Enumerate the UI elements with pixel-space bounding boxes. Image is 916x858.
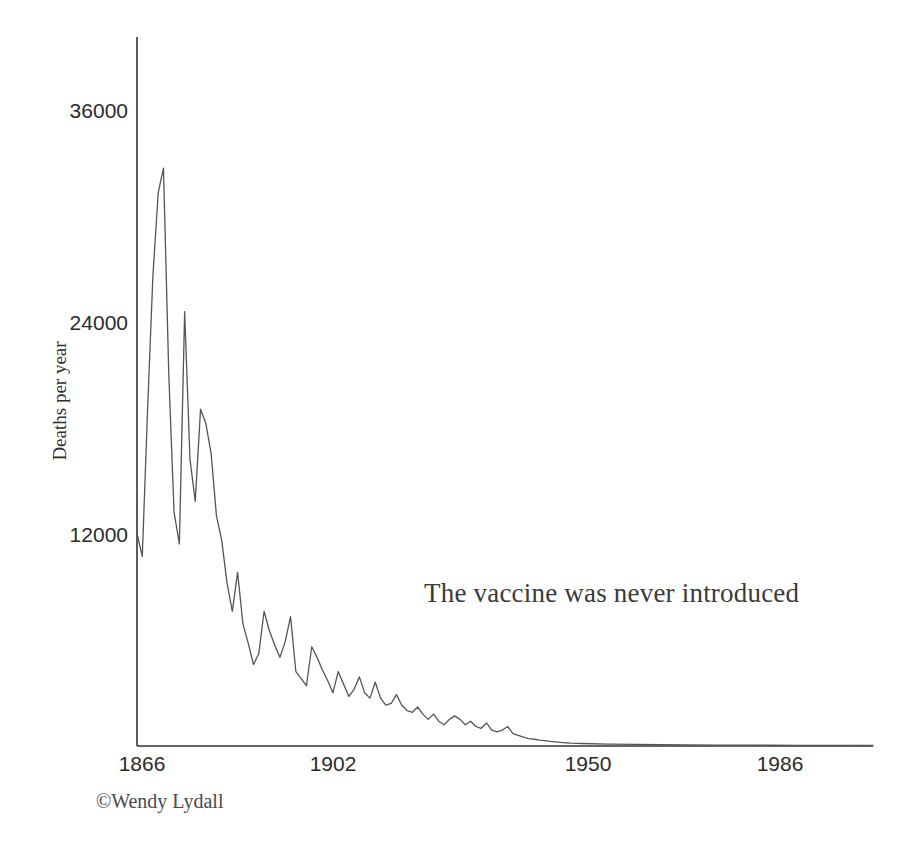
y-axis-title: Deaths per year [49,301,71,501]
x-tick-label-1986: 1986 [740,752,820,776]
x-tick-label-1902: 1902 [293,752,373,776]
y-tick-label-12000: 12000 [40,523,128,547]
chart-annotation-text: The vaccine was never introduced [424,578,799,609]
data-series-line [137,168,873,745]
y-tick-label-36000: 36000 [40,99,128,123]
line-chart-figure [0,0,916,858]
chart-container: 36000 24000 12000 1866 1902 1950 1986 De… [0,0,916,858]
x-tick-label-1866: 1866 [102,752,182,776]
x-tick-label-1950: 1950 [548,752,628,776]
copyright-credit: ©Wendy Lydall [96,790,223,813]
